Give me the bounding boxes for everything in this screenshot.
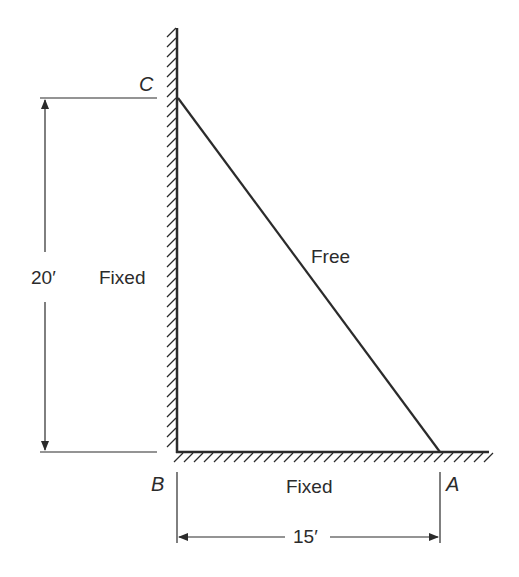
vertical-support-label: Fixed — [99, 268, 145, 287]
wall-hatching — [167, 28, 176, 447]
frame-diagram — [0, 0, 519, 577]
free-member-ca — [178, 98, 440, 452]
ground-hatching — [174, 453, 493, 462]
height-dimension-label: 20′ — [28, 268, 59, 287]
point-label-a: A — [446, 474, 459, 494]
vertical-fixed-support — [167, 28, 177, 453]
point-label-b: B — [151, 474, 164, 494]
point-label-c: C — [139, 74, 153, 94]
horizontal-fixed-support — [174, 452, 493, 462]
horizontal-support-label: Fixed — [286, 477, 332, 496]
width-dimension-label: 15′ — [290, 527, 321, 546]
free-member-label: Free — [311, 247, 350, 266]
